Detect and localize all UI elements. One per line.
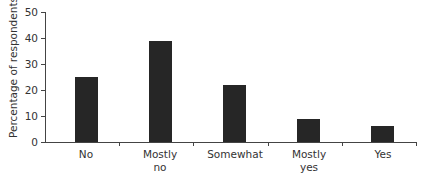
x-tick-label: No [49, 148, 123, 161]
x-tick-label-line: Mostly [272, 148, 346, 161]
bar-mostly-no [149, 41, 172, 142]
x-tick [119, 142, 120, 146]
y-tick [41, 116, 46, 117]
y-tick-label: 0 [18, 136, 38, 148]
x-axis-line [45, 142, 416, 143]
x-tick-label: Mostlyno [123, 148, 197, 174]
x-tick-label: Mostlyyes [272, 148, 346, 174]
y-tick [41, 12, 46, 13]
x-tick-label-line: yes [272, 161, 346, 174]
x-tick-label-line: No [49, 148, 123, 161]
y-tick [41, 64, 46, 65]
x-tick-label-line: Mostly [123, 148, 197, 161]
y-tick-label: 20 [18, 84, 38, 96]
x-tick [268, 142, 269, 146]
bar-somewhat [223, 85, 246, 142]
y-tick-label: 10 [18, 110, 38, 122]
y-tick-label: 30 [18, 58, 38, 70]
x-tick [342, 142, 343, 146]
y-axis-line [45, 12, 46, 142]
x-tick-label-line: Somewhat [198, 148, 272, 161]
x-tick-label-line: Yes [346, 148, 420, 161]
y-tick [41, 142, 46, 143]
y-tick [41, 90, 46, 91]
x-tick-label: Somewhat [198, 148, 272, 161]
x-tick [193, 142, 194, 146]
y-tick-label: 50 [18, 6, 38, 18]
bar-mostly-yes [297, 119, 320, 142]
x-tick-label-line: no [123, 161, 197, 174]
bar-yes [371, 126, 394, 142]
bar-chart: Percentage of respondents 01020304050 No… [0, 0, 422, 179]
y-tick [41, 38, 46, 39]
x-tick [416, 142, 417, 146]
x-tick-label: Yes [346, 148, 420, 161]
y-tick-label: 40 [18, 32, 38, 44]
bar-no [75, 77, 98, 142]
